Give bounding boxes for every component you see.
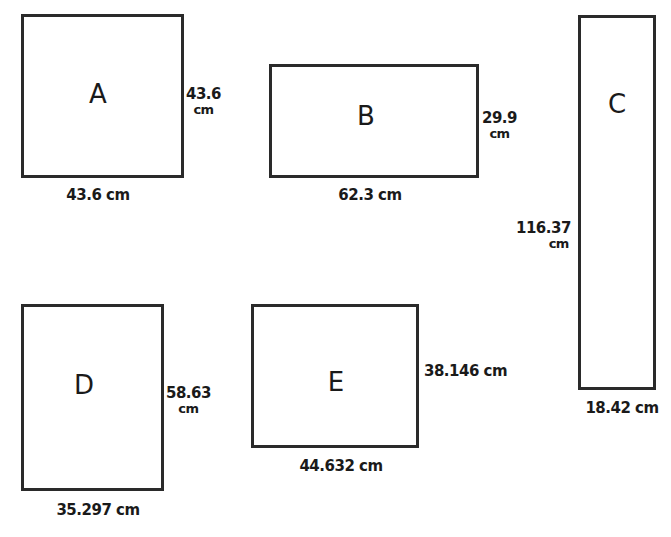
rectangle-b-width: 62.3 cm — [338, 187, 401, 203]
rectangle-e-height: 38.146 cm — [424, 363, 507, 379]
rectangle-b-label: B — [357, 101, 375, 131]
rectangle-a-height: 43.6 cm — [186, 86, 221, 118]
rectangle-b-height: 29.9 cm — [482, 110, 517, 142]
rectangle-d-height-value: 58.63 — [166, 385, 211, 401]
rectangle-e-label: E — [328, 367, 344, 397]
rectangle-d-width: 35.297 cm — [56, 502, 139, 518]
rectangle-d-height-unit: cm — [166, 401, 211, 417]
rectangle-e-width: 44.632 cm — [299, 458, 382, 474]
rectangle-d-height: 58.63 cm — [166, 385, 211, 417]
rectangle-c — [578, 15, 656, 390]
rectangle-b-height-value: 29.9 — [482, 110, 517, 126]
rectangle-c-label: C — [608, 89, 626, 119]
rectangle-c-height-value: 116.37 — [516, 220, 571, 236]
rectangle-c-height: 116.37 cm — [516, 220, 571, 252]
rectangle-a-height-unit: cm — [186, 102, 221, 118]
rectangle-b-height-unit: cm — [482, 126, 517, 142]
rectangle-a-width: 43.6 cm — [66, 187, 129, 203]
rectangle-a-label: A — [89, 79, 107, 109]
rectangle-c-width: 18.42 cm — [585, 400, 658, 416]
rectangle-c-height-unit: cm — [516, 236, 571, 252]
rectangle-a-height-value: 43.6 — [186, 86, 221, 102]
rectangle-d-label: D — [74, 370, 94, 400]
